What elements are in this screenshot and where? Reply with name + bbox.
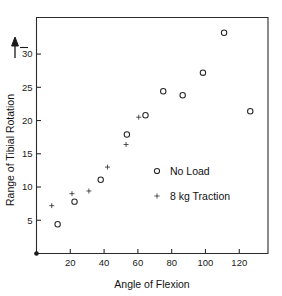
data-point-8kg-traction xyxy=(49,203,54,208)
data-point-8kg-traction xyxy=(86,189,91,194)
legend-label-8kg-traction: 8 kg Traction xyxy=(170,190,230,202)
data-point-no-load xyxy=(248,109,253,114)
y-tick-label: 20 xyxy=(22,115,33,126)
data-point-8kg-traction xyxy=(136,115,141,120)
y-tick-label: 30 xyxy=(22,48,33,59)
x-tick-label: 120 xyxy=(231,257,247,268)
x-tick-label: 20 xyxy=(65,257,76,268)
x-tick-label: 80 xyxy=(166,257,177,268)
data-point-no-load xyxy=(221,30,226,35)
data-point-no-load xyxy=(180,93,185,98)
y-tick-label: 15 xyxy=(22,148,33,159)
y-axis-ticks: 51015202530 xyxy=(22,48,41,225)
data-point-no-load xyxy=(55,222,60,227)
data-point-no-load xyxy=(143,113,148,118)
y-tick-label: 10 xyxy=(22,181,33,192)
x-axis-ticks: 20406080100120 xyxy=(65,249,247,268)
y-axis-title: Range of Tibial Rotation xyxy=(4,94,16,206)
x-tick-label: 60 xyxy=(133,257,144,268)
data-point-no-load xyxy=(98,177,103,182)
legend: No Load 8 kg Traction xyxy=(154,165,230,202)
series-8kg-traction xyxy=(49,115,141,208)
data-point-no-load xyxy=(124,132,129,137)
y-tick-label: 5 xyxy=(27,215,32,226)
x-tick-label: 100 xyxy=(198,257,214,268)
x-axis-title: Angle of Flexion xyxy=(114,278,189,290)
legend-marker-no-load xyxy=(154,168,159,173)
x-tick-label: 40 xyxy=(99,257,110,268)
plot-frame xyxy=(37,18,269,254)
origin-marker xyxy=(34,251,39,256)
data-point-8kg-traction xyxy=(69,191,74,196)
data-point-no-load xyxy=(161,89,166,94)
legend-label-no-load: No Load xyxy=(170,165,210,177)
data-point-no-load xyxy=(200,70,205,75)
data-point-no-load xyxy=(72,199,77,204)
data-point-8kg-traction xyxy=(105,165,110,170)
legend-marker-8kg-traction xyxy=(154,193,159,198)
plot-canvas: 20406080100120 51015202530 Angle of Flex… xyxy=(0,0,282,296)
y-tick-label: 25 xyxy=(22,82,33,93)
origin-dot xyxy=(34,251,39,256)
data-point-8kg-traction xyxy=(124,142,129,147)
scatter-plot-figure: 20406080100120 51015202530 Angle of Flex… xyxy=(0,0,282,296)
